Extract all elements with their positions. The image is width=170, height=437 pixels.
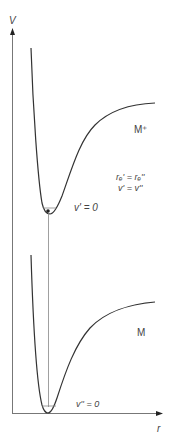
potential-energy-diagram: [0, 0, 170, 437]
x-axis-arrow-icon: [156, 411, 163, 416]
relation-v-label: v' = v'': [118, 184, 142, 193]
upper-v0-dot-icon: [46, 209, 50, 213]
x-axis-label: r: [157, 424, 160, 434]
y-axis-arrow-icon: [10, 28, 15, 35]
lower-curve-label: M: [137, 328, 145, 338]
lower-level-label: v'' = 0: [76, 400, 99, 409]
upper-curve-label: M⁺: [134, 125, 147, 135]
relation-re-label: rₑ' = rₑ'': [116, 173, 144, 182]
y-axis-label: V: [9, 16, 16, 26]
upper-level-label: v' = 0: [74, 203, 98, 213]
